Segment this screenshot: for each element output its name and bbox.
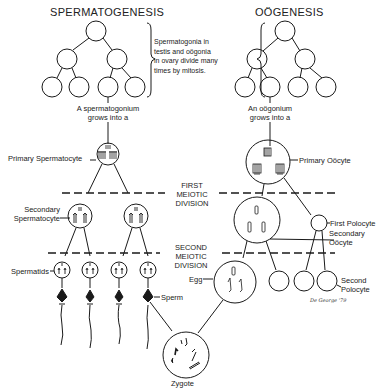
label-line-1: SECOND	[162, 243, 220, 252]
spermatids	[50, 262, 156, 288]
label-line-2: MEIOTIC	[162, 252, 220, 261]
first-polocyte-label: First Polocyte	[330, 219, 375, 228]
primary-spermatocyte-label: Primary Spermatocyte	[8, 154, 82, 163]
label-line-2: Oöcyte	[329, 238, 365, 247]
label-line-2: Polocyte	[341, 285, 370, 294]
spermatogonium-caption: A spermatogonium grows into a	[72, 104, 144, 122]
primary-oocyte	[246, 140, 311, 215]
second-meiotic-division-label: SECOND MEIOTIC DIVISION	[162, 243, 220, 270]
zygote	[163, 332, 209, 378]
zygote-label: Zygote	[171, 379, 194, 388]
label-line-1: FIRST	[166, 181, 218, 190]
primary-spermatocyte	[88, 143, 128, 193]
caption-line-1: An oögonium	[238, 104, 302, 113]
oogenesis-title: OÖGENESIS	[255, 6, 324, 18]
spermatogonia-tree	[42, 21, 145, 144]
sperm-cells	[57, 289, 172, 349]
mitosis-note: Spermatogonia in testis and oögonia in o…	[154, 37, 218, 75]
secondary-oocyte	[234, 197, 334, 270]
label-line-1: Secondary	[6, 205, 60, 214]
note-line-1: Spermatogonia in	[154, 37, 218, 47]
egg-label: Egg	[189, 275, 202, 284]
label-line-2: MEIOTIC	[166, 190, 218, 199]
first-meiotic-division-label: FIRST MEIOTIC DIVISION	[166, 181, 218, 208]
label-line-3: DIVISION	[162, 261, 220, 270]
secondary-spermatocytes	[60, 204, 148, 256]
spermatids-label: Spermatids	[11, 267, 49, 276]
first-polocyte	[306, 215, 330, 270]
right-brace	[257, 23, 265, 97]
secondary-spermatocyte-label: Secondary Spermatocyte	[6, 205, 60, 223]
secondary-oocyte-label: Secondary Oöcyte	[329, 229, 365, 247]
spermatogenesis-title: SPERMATOGENESIS	[50, 6, 164, 18]
sperm-label: Sperm	[161, 293, 183, 302]
caption-line-1: A spermatogonium	[72, 104, 144, 113]
primary-oocyte-label: Primary Oöcyte	[299, 156, 351, 165]
note-line-3: in ovary divide many	[154, 56, 218, 66]
note-line-2: testis and oögonia	[154, 47, 218, 57]
egg	[198, 261, 256, 333]
oogonia-tree	[235, 21, 336, 146]
oogonium-caption: An oögonium grows into a	[238, 104, 302, 122]
caption-line-2: grows into a	[72, 113, 144, 122]
second-polocytes	[269, 271, 341, 291]
caption-line-2: grows into a	[238, 113, 302, 122]
artist-signature: De George '79	[310, 297, 346, 303]
note-line-4: times by mitosis.	[154, 66, 218, 76]
label-line-1: Second	[341, 276, 370, 285]
second-polocyte-label: Second Polocyte	[341, 276, 370, 294]
label-line-2: Spermatocyte	[6, 214, 60, 223]
label-line-1: Secondary	[329, 229, 365, 238]
label-line-3: DIVISION	[166, 199, 218, 208]
